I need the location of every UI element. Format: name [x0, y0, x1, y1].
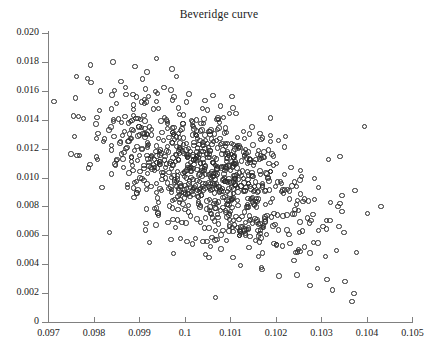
scatter-point — [297, 219, 302, 224]
scatter-point — [276, 273, 281, 278]
scatter-point — [197, 138, 202, 143]
scatter-point — [204, 239, 209, 244]
scatter-point — [135, 158, 140, 163]
scatter-point — [232, 173, 237, 178]
scatter-plot-area — [48, 33, 412, 322]
scatter-point — [214, 165, 219, 170]
scatter-point — [114, 158, 119, 163]
scatter-point — [220, 195, 225, 200]
scatter-point — [174, 134, 179, 139]
scatter-point — [190, 241, 195, 246]
scatter-point — [88, 62, 93, 67]
scatter-point — [143, 227, 148, 232]
scatter-point — [216, 199, 221, 204]
scatter-point — [175, 207, 180, 212]
scatter-point — [206, 255, 211, 260]
scatter-point — [187, 165, 192, 170]
scatter-point — [168, 237, 173, 242]
x-tick-label: 0.104 — [356, 327, 379, 338]
scatter-point — [156, 106, 161, 111]
scatter-point — [144, 187, 149, 192]
scatter-point — [181, 151, 186, 156]
scatter-point — [184, 186, 189, 191]
scatter-point — [299, 174, 304, 179]
scatter-point — [126, 120, 131, 125]
scatter-point — [205, 107, 210, 112]
scatter-point — [210, 93, 215, 98]
scatter-point — [378, 204, 383, 209]
scatter-point — [181, 135, 186, 140]
scatter-point — [126, 170, 131, 175]
scatter-point — [218, 246, 223, 251]
scatter-point — [232, 162, 237, 167]
scatter-point — [195, 188, 200, 193]
scatter-point — [109, 171, 114, 176]
scatter-point — [268, 169, 273, 174]
scatter-point — [302, 244, 307, 249]
scatter-point — [86, 165, 91, 170]
scatter-point — [94, 115, 99, 120]
scatter-point — [125, 185, 130, 190]
scatter-point — [122, 114, 127, 119]
scatter-point — [97, 108, 102, 113]
scatter-point — [242, 188, 247, 193]
scatter-point — [266, 161, 271, 166]
scatter-point — [109, 106, 114, 111]
scatter-point — [112, 88, 117, 93]
scatter-point — [291, 258, 296, 263]
scatter-point — [131, 128, 136, 133]
scatter-point — [137, 153, 142, 158]
scatter-point — [114, 101, 119, 106]
x-tick-label: 0.097 — [37, 327, 60, 338]
scatter-point — [298, 168, 303, 173]
scatter-point — [292, 207, 297, 212]
scatter-point — [280, 243, 285, 248]
scatter-point — [94, 136, 99, 141]
scatter-point — [154, 160, 159, 165]
scatter-point — [230, 255, 235, 260]
scatter-point — [106, 127, 111, 132]
scatter-point — [286, 232, 291, 237]
y-tick: 0 — [42, 322, 48, 323]
scatter-point — [169, 166, 174, 171]
y-tick-label: 0.018 — [17, 55, 40, 66]
scatter-point — [171, 94, 176, 99]
x-tick-label: 0.1 — [179, 327, 192, 338]
scatter-point — [224, 130, 229, 135]
scatter-point — [276, 227, 281, 232]
scatter-point — [271, 211, 276, 216]
scatter-point — [121, 165, 126, 170]
scatter-point — [241, 129, 246, 134]
scatter-point — [292, 211, 297, 216]
scatter-point — [158, 118, 163, 123]
scatter-point — [320, 224, 325, 229]
scatter-point — [186, 203, 191, 208]
scatter-point — [225, 163, 230, 168]
scatter-point — [194, 216, 199, 221]
scatter-point — [307, 220, 312, 225]
scatter-point — [200, 106, 205, 111]
scatter-point — [227, 111, 232, 116]
scatter-point — [186, 91, 191, 96]
scatter-point — [326, 157, 331, 162]
scatter-point — [209, 142, 214, 147]
scatter-point — [176, 157, 181, 162]
scatter-point — [235, 189, 240, 194]
scatter-point — [294, 272, 299, 277]
scatter-point — [118, 79, 123, 84]
scatter-point — [275, 179, 280, 184]
scatter-point — [170, 155, 175, 160]
scatter-point — [198, 149, 203, 154]
scatter-point — [146, 163, 151, 168]
scatter-point — [247, 131, 252, 136]
scatter-point — [206, 172, 211, 177]
scatter-point — [215, 127, 220, 132]
scatter-point — [224, 202, 229, 207]
scatter-point — [197, 204, 202, 209]
scatter-point — [330, 287, 335, 292]
scatter-point — [216, 221, 221, 226]
scatter-point — [164, 161, 169, 166]
scatter-point — [165, 180, 170, 185]
scatter-point — [212, 155, 217, 160]
chart-title: Beveridge curve — [0, 8, 438, 20]
